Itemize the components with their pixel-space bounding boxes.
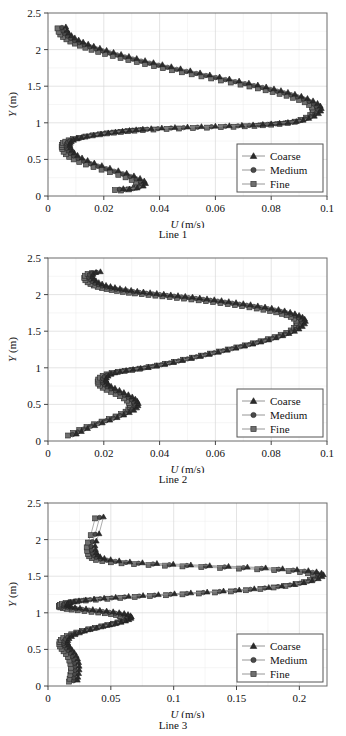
chart-svg-line-1: 00.020.040.060.080.100.511.522.5U (m/s)Y…	[0, 0, 346, 228]
chart-panel-line-2: 00.020.040.060.080.100.511.522.5U (m/s)Y…	[0, 245, 346, 490]
x-axis-title: U (m/s)	[171, 218, 205, 228]
y-tick-label: 2.5	[27, 497, 41, 509]
x-tick-label: 0.15	[227, 692, 247, 704]
y-tick-label: 2	[36, 44, 42, 56]
chart-legend: CoarseMediumFine	[237, 634, 323, 682]
x-axis-title: U (m/s)	[171, 463, 205, 473]
y-tick-label: 2.5	[27, 252, 41, 264]
x-tick-label: 0.1	[320, 447, 334, 459]
y-tick-label: 2	[36, 289, 42, 301]
y-tick-label: 0	[36, 190, 42, 202]
y-tick-label: 0.5	[27, 153, 41, 165]
legend-label-coarse: Coarse	[270, 150, 301, 162]
chart-caption-line-1: Line 1	[0, 228, 346, 240]
y-tick-label: 2	[36, 534, 42, 546]
y-tick-label: 2.5	[27, 7, 41, 19]
x-tick-label: 0.06	[206, 202, 226, 214]
chart-panel-line-1: 00.020.040.060.080.100.511.522.5U (m/s)Y…	[0, 0, 346, 245]
x-tick-label: 0	[45, 692, 51, 704]
chart-legend: CoarseMediumFine	[237, 144, 323, 192]
y-tick-label: 1.5	[27, 80, 41, 92]
x-tick-label: 0	[45, 447, 51, 459]
x-axis-title: U (m/s)	[171, 708, 205, 718]
y-tick-label: 1.5	[27, 570, 41, 582]
chart-svg-line-2: 00.020.040.060.080.100.511.522.5U (m/s)Y…	[0, 245, 346, 473]
x-tick-label: 0.02	[94, 202, 113, 214]
y-tick-label: 1	[36, 607, 42, 619]
y-axis-title: Y (m)	[6, 337, 19, 362]
legend-label-fine: Fine	[270, 423, 290, 435]
x-tick-label: 0.06	[206, 447, 226, 459]
y-tick-label: 1.5	[27, 325, 41, 337]
chart-svg-line-3: 00.050.10.150.200.511.522.5U (m/s)Y (m)C…	[0, 490, 346, 718]
chart-legend: CoarseMediumFine	[237, 389, 323, 437]
y-axis-title: Y (m)	[6, 92, 19, 117]
x-tick-label: 0	[45, 202, 51, 214]
x-tick-label: 0.2	[292, 692, 306, 704]
y-tick-label: 0	[36, 680, 42, 692]
y-axis-title: Y (m)	[6, 582, 19, 607]
y-tick-label: 1	[36, 117, 42, 129]
y-tick-label: 0.5	[27, 643, 41, 655]
legend-label-medium: Medium	[270, 654, 308, 666]
x-tick-label: 0.1	[167, 692, 181, 704]
x-tick-label: 0.04	[150, 202, 170, 214]
legend-label-coarse: Coarse	[270, 395, 301, 407]
chart-panel-line-3: 00.050.10.150.200.511.522.5U (m/s)Y (m)C…	[0, 490, 346, 735]
x-tick-label: 0.1	[320, 202, 334, 214]
chart-caption-line-3: Line 3	[0, 719, 346, 731]
y-tick-label: 1	[36, 362, 42, 374]
legend-label-fine: Fine	[270, 178, 290, 190]
legend-label-medium: Medium	[270, 409, 308, 421]
legend-label-fine: Fine	[270, 668, 290, 680]
figure-stack: 00.020.040.060.080.100.511.522.5U (m/s)Y…	[0, 0, 346, 736]
chart-caption-line-2: Line 2	[0, 473, 346, 485]
legend-label-medium: Medium	[270, 164, 308, 176]
x-tick-label: 0.05	[101, 692, 121, 704]
x-tick-label: 0.04	[150, 447, 170, 459]
y-tick-label: 0	[36, 435, 42, 447]
y-tick-label: 0.5	[27, 398, 41, 410]
legend-label-coarse: Coarse	[270, 640, 301, 652]
x-tick-label: 0.02	[94, 447, 113, 459]
x-tick-label: 0.08	[262, 447, 282, 459]
x-tick-label: 0.08	[262, 202, 282, 214]
